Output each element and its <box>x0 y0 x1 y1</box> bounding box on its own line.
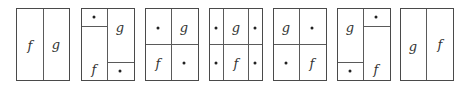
dot-marker <box>183 62 186 65</box>
divider <box>363 26 390 27</box>
divider <box>82 26 107 27</box>
label-f: f <box>156 57 161 70</box>
dot-marker <box>285 62 288 65</box>
panel-6: g f <box>337 8 391 81</box>
label-g: g <box>180 21 188 34</box>
panel-7: g f <box>400 8 454 81</box>
dot-marker <box>254 62 257 65</box>
divider <box>210 44 262 45</box>
label-g: g <box>52 38 60 51</box>
divider <box>338 62 363 63</box>
label-f: f <box>28 39 33 52</box>
dot-marker <box>119 70 122 73</box>
divider <box>426 9 427 80</box>
dot-marker <box>215 62 218 65</box>
panel-4: g f <box>209 8 263 81</box>
divider <box>363 9 364 80</box>
label-f: f <box>438 38 443 51</box>
label-g: g <box>116 21 124 34</box>
divider <box>146 44 198 45</box>
divider <box>107 9 108 80</box>
label-f: f <box>374 63 379 76</box>
dot-marker <box>254 27 257 30</box>
label-g: g <box>232 21 240 34</box>
panel-2: g f <box>81 8 135 81</box>
dot-marker <box>215 27 218 30</box>
divider <box>43 9 44 80</box>
dot-marker <box>157 27 160 30</box>
label-g: g <box>409 40 417 53</box>
divider <box>274 44 326 45</box>
panel-5: g f <box>273 8 327 81</box>
label-f: f <box>92 63 97 76</box>
dot-marker <box>311 27 314 30</box>
dot-marker <box>375 16 378 19</box>
dot-marker <box>349 70 352 73</box>
dot-marker <box>93 16 96 19</box>
label-g: g <box>346 21 354 34</box>
divider <box>107 62 134 63</box>
panel-3: g f <box>145 8 199 81</box>
label-g: g <box>282 21 290 34</box>
label-f: f <box>310 57 315 70</box>
label-f: f <box>234 57 239 70</box>
panel-1: f g <box>16 8 70 81</box>
